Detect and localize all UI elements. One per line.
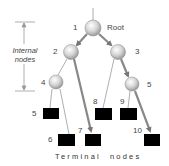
root-label: Root [107, 24, 124, 32]
terminal-label-7: 7 [78, 127, 82, 135]
terminal-node-5 [43, 108, 59, 119]
internal-nodes-label-line2: nodes [10, 55, 40, 64]
internal-node-2 [64, 45, 79, 60]
terminal-label-9: 9 [120, 98, 124, 106]
terminal-node-10 [144, 134, 160, 146]
terminal-label-6: 6 [48, 136, 52, 144]
terminal-node-6 [58, 134, 75, 146]
node-label-5: 5 [147, 81, 151, 89]
internal-node-5 [125, 77, 139, 91]
node-label-4: 4 [41, 79, 45, 87]
node-label-3: 3 [135, 48, 139, 56]
internal-node-3 [111, 45, 126, 60]
internal-nodes-label: Internal nodes [10, 46, 40, 64]
internal-node-4 [49, 75, 63, 89]
decision-tree-diagram [0, 0, 169, 166]
terminal-label-8: 8 [93, 98, 97, 106]
internal-nodes-label-line1: Internal [10, 46, 40, 55]
internal-node-1 [85, 20, 101, 36]
terminal-label-5: 5 [32, 110, 36, 118]
terminal-node-8 [95, 108, 112, 120]
terminal-node-7 [85, 134, 101, 146]
terminal-nodes-label-word1: Terminal [55, 153, 101, 161]
terminal-node-9 [120, 108, 137, 120]
node-label-2: 2 [53, 48, 57, 56]
terminal-nodes-label-word2: nodes [110, 153, 141, 161]
internal-nodes [49, 20, 139, 91]
node-label-1: 1 [73, 24, 77, 32]
terminal-label-10: 10 [133, 127, 142, 135]
